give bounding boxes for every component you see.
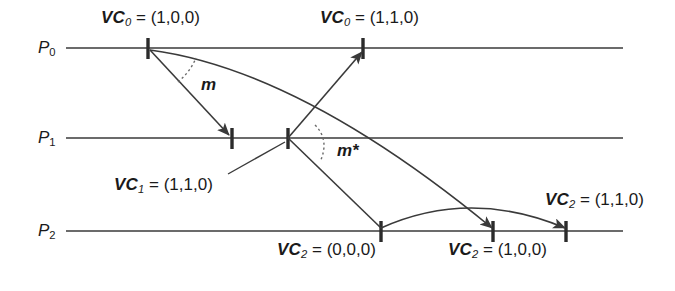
message-label-m-star: m* — [337, 142, 359, 159]
process-label-p1-name: P — [38, 128, 49, 147]
vc-label-p0-recv-name: VC — [320, 8, 344, 27]
message-arrow-p2-forward — [381, 208, 565, 228]
process-label-p2-sub: 2 — [49, 229, 55, 241]
process-label-p0-name: P — [38, 38, 49, 57]
angle-arc-m — [178, 58, 196, 82]
process-label-p2-name: P — [38, 221, 49, 240]
process-label-p1: P1 — [38, 129, 56, 146]
vc-label-p2-recv2-name: VC — [545, 190, 569, 209]
process-label-p0: P0 — [38, 39, 56, 56]
vc-label-p2-recv1-name: VC — [448, 240, 472, 259]
vc-label-p0-send-sub: 0 — [125, 16, 131, 28]
label-leader-lines — [228, 142, 285, 174]
vc-label-p1-recv-sub: 1 — [138, 183, 144, 195]
message-arrow-mstar-to-p0 — [288, 52, 362, 138]
vc-label-p2-init-sub: 2 — [301, 248, 307, 260]
vector-clock-diagram: P0 P1 P2 VC0 = (1,0,0) VC0 = (1,1,0) VC1… — [0, 0, 675, 291]
angle-arcs — [178, 58, 324, 162]
message-arrow-m-to-p1 — [150, 50, 229, 135]
vc-label-p2-init-name: VC — [277, 240, 301, 259]
vc-label-p0-recv: VC0 = (1,1,0) — [320, 9, 419, 26]
vc-label-p2-recv1-eq: = — [478, 240, 497, 259]
vc-label-p1-recv-name: VC — [114, 175, 138, 194]
process-label-p1-sub: 1 — [49, 136, 55, 148]
vc-label-p2-init-tuple: (0,0,0) — [327, 240, 376, 259]
vc-label-p0-send-name: VC — [101, 8, 125, 27]
message-label-m: m — [201, 76, 216, 93]
process-timelines — [66, 48, 623, 231]
vc-label-p2-recv2: VC2 = (1,1,0) — [545, 191, 644, 208]
vc-label-p0-send-tuple: (1,0,0) — [151, 8, 200, 27]
vc-label-p0-send: VC0 = (1,0,0) — [101, 9, 200, 26]
vc-label-p0-recv-tuple: (1,1,0) — [370, 8, 419, 27]
vc-label-p2-recv1-sub: 2 — [472, 248, 478, 260]
vc-label-p2-recv1: VC2 = (1,0,0) — [448, 241, 547, 258]
vc-label-p1-recv-tuple: (1,1,0) — [164, 175, 213, 194]
vc-label-p2-recv2-eq: = — [575, 190, 594, 209]
message-arrow-mstar-to-p2-segment — [288, 138, 381, 228]
vc-label-p0-recv-eq: = — [350, 8, 369, 27]
vc-label-p2-recv2-tuple: (1,1,0) — [595, 190, 644, 209]
angle-arc-mstar — [315, 125, 324, 162]
leader-line-vc1 — [228, 142, 285, 174]
vc-label-p2-init: VC2 = (0,0,0) — [277, 241, 376, 258]
vc-label-p2-init-eq: = — [307, 240, 326, 259]
vc-label-p1-recv: VC1 = (1,1,0) — [114, 176, 213, 193]
vc-label-p0-recv-sub: 0 — [344, 16, 350, 28]
process-label-p2: P2 — [38, 222, 56, 239]
vc-label-p2-recv1-tuple: (1,0,0) — [498, 240, 547, 259]
process-label-p0-sub: 0 — [49, 46, 55, 58]
vc-label-p1-recv-eq: = — [144, 175, 163, 194]
vc-label-p0-send-eq: = — [131, 8, 150, 27]
event-tick-marks — [148, 38, 566, 242]
vc-label-p2-recv2-sub: 2 — [569, 198, 575, 210]
